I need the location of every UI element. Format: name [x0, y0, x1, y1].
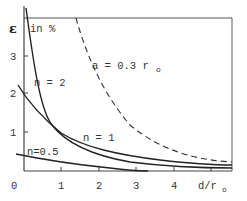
label-n05: n=0.5 — [27, 146, 59, 158]
y-tick-3: 3 — [10, 51, 16, 63]
x-tick-2: 2 — [96, 180, 102, 192]
label-n1: n = 1 — [83, 132, 115, 144]
x-tick-0: 0 — [11, 180, 17, 192]
x-tick-3: 3 — [133, 180, 139, 192]
x-tick-4: 4 — [171, 180, 177, 192]
label-a03-sub: o — [156, 65, 161, 74]
x-axis-label: d/r — [198, 180, 217, 192]
label-n2: n = 2 — [34, 77, 66, 89]
chart: 0 1 2 3 4 1 2 3 ε in % d/r o n = 2 n = 1… — [0, 0, 247, 201]
label-a03: a = 0.3 r — [92, 60, 149, 72]
y-tick-2: 2 — [10, 88, 16, 100]
y-axis-symbol: ε — [9, 21, 17, 36]
y-axis-unit: in % — [30, 23, 56, 35]
y-tick-1: 1 — [10, 127, 16, 139]
x-tick-1: 1 — [58, 180, 64, 192]
x-axis-label-sub: o — [222, 185, 227, 194]
